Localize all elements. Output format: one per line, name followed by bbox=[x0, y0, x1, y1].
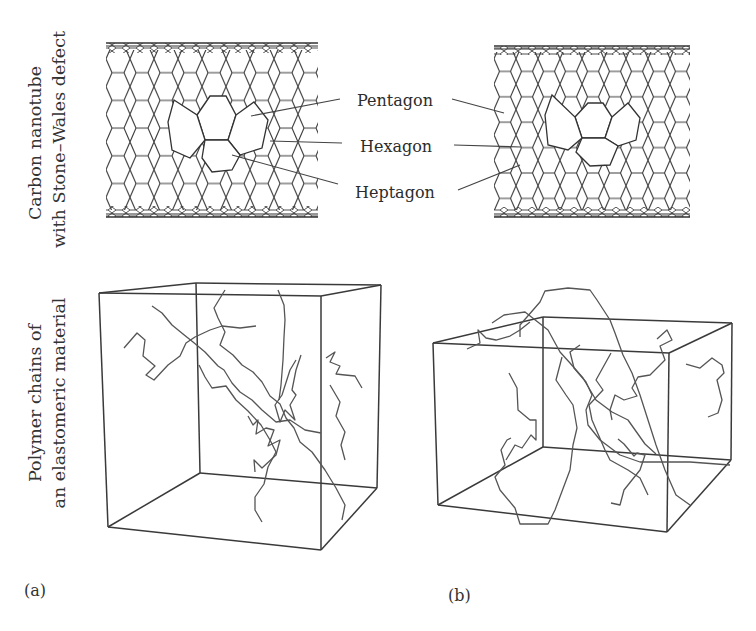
nanotube-a bbox=[106, 43, 318, 217]
nanotube-b bbox=[494, 46, 690, 217]
polymer-chains-b bbox=[467, 288, 730, 524]
polymer-box-b bbox=[433, 317, 732, 532]
polymer-box-a bbox=[99, 283, 381, 550]
figure-graphics bbox=[0, 0, 756, 631]
polymer-chains-a bbox=[124, 290, 362, 522]
